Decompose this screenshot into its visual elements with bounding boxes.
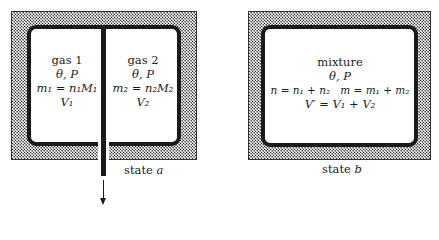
- state-a-caption-var: a: [156, 163, 163, 177]
- gas1-mass-relation: m₁ = n₁M₁: [34, 81, 100, 95]
- gas2-label: gas 2 θ, P m₂ = n₂M₂ V₂: [108, 53, 178, 109]
- state-b-caption-var: b: [354, 162, 361, 176]
- gas1-label: gas 1 θ, P m₁ = n₁M₁ V₁: [34, 53, 100, 109]
- state-a-caption: state a: [124, 163, 163, 177]
- mixture-volume-relation: V′ = V₁ + V₂: [262, 97, 418, 111]
- removable-partition[interactable]: [101, 27, 106, 176]
- mixture-label: mixture θ, P n = n₁ + n₂ m = m₁ + m₂ V′ …: [262, 55, 418, 111]
- state-b-caption-prefix: state: [322, 162, 351, 176]
- mixture-mass-relation: m = m₁ + m₂: [340, 84, 409, 96]
- gas2-volume: V₂: [108, 95, 178, 109]
- arrow-down-icon: [100, 198, 106, 205]
- gas1-name: gas 1: [34, 53, 100, 67]
- mixture-amounts: n = n₁ + n₂ m = m₁ + m₂: [262, 83, 418, 97]
- gas1-conditions: θ, P: [34, 67, 100, 81]
- gas2-conditions: θ, P: [108, 67, 178, 81]
- mixture-conditions: θ, P: [262, 69, 418, 83]
- gas1-volume: V₁: [34, 95, 100, 109]
- mixture-moles-relation: n = n₁ + n₂: [271, 84, 331, 96]
- arrow-shaft: [103, 180, 104, 199]
- state-b-caption: state b: [322, 162, 362, 176]
- gas2-name: gas 2: [108, 53, 178, 67]
- state-a-caption-prefix: state: [124, 163, 153, 177]
- mixture-name: mixture: [262, 55, 418, 69]
- gas2-mass-relation: m₂ = n₂M₂: [108, 81, 178, 95]
